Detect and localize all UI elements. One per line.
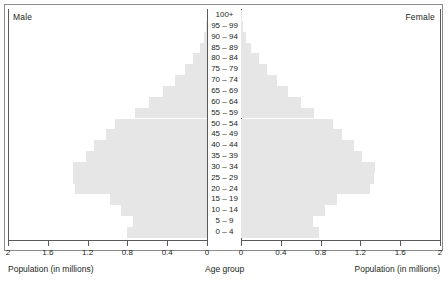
bar [175, 75, 207, 86]
axis-tick [440, 241, 441, 246]
bar [241, 151, 362, 162]
male-baseline-axis [8, 240, 208, 241]
axis-tick [241, 241, 242, 246]
bar [241, 119, 333, 130]
bar-row [8, 119, 207, 130]
axis-tick [360, 241, 361, 246]
axis-tick-label: 1.6 [42, 248, 53, 257]
bar [86, 151, 207, 162]
bar [241, 227, 319, 238]
bar-row [8, 97, 207, 108]
bar [206, 21, 207, 32]
age-group-label: 95 – 99 [208, 21, 241, 32]
axis-tick [400, 241, 401, 246]
axis-tick-label: 0.4 [162, 248, 173, 257]
bar-row [8, 129, 207, 140]
bar-row [8, 194, 207, 205]
bar [241, 129, 342, 140]
male-bars-panel [8, 10, 207, 238]
bar [73, 173, 207, 184]
bar [241, 162, 375, 173]
age-group-label: 0 – 4 [208, 227, 241, 238]
bar [94, 140, 207, 151]
bar-row [8, 205, 207, 216]
axis-tick [127, 241, 128, 246]
bar-row [241, 97, 440, 108]
bar-row [241, 64, 440, 75]
bar [135, 108, 207, 119]
bar-row [8, 43, 207, 54]
bar-row [241, 151, 440, 162]
bar-row [241, 216, 440, 227]
axis-tick [321, 241, 322, 246]
bar-row [241, 205, 440, 216]
axis-tick-label: 1.2 [355, 248, 366, 257]
bar-row [241, 75, 440, 86]
bar [241, 86, 288, 97]
age-group-label: 40 – 44 [208, 140, 241, 151]
bar-row [8, 32, 207, 43]
bar-row [241, 129, 440, 140]
age-group-label: 50 – 54 [208, 119, 241, 130]
bar-row [8, 53, 207, 64]
bar [241, 173, 374, 184]
bar-row [8, 216, 207, 227]
right-axis-title: Population (in millions) [354, 264, 440, 274]
axis-tick-label: 0.8 [122, 248, 133, 257]
age-group-label: 100+ [208, 10, 241, 21]
age-group-label: 70 – 74 [208, 75, 241, 86]
axis-tick [281, 241, 282, 246]
bar [241, 216, 313, 227]
age-group-label: 75 – 79 [208, 64, 241, 75]
bar-row [8, 173, 207, 184]
population-pyramid-chart: Male Female 100+95 – 9990 – 9485 – 8980 … [0, 0, 448, 291]
male-bar-rows [8, 10, 207, 238]
age-group-label-column: 100+95 – 9990 – 9485 – 8980 – 8475 – 797… [208, 9, 241, 241]
bar [241, 184, 370, 195]
bar [121, 205, 207, 216]
axis-tick-label: 0.4 [275, 248, 286, 257]
age-group-label: 65 – 69 [208, 86, 241, 97]
age-group-label: 35 – 39 [208, 151, 241, 162]
bar-row [241, 53, 440, 64]
female-bars-panel [241, 10, 440, 238]
bar [115, 119, 207, 130]
bar [241, 75, 277, 86]
bar [241, 205, 325, 216]
female-bar-rows [241, 10, 440, 238]
axis-tick-label: 0 [205, 248, 209, 257]
bar-row [241, 162, 440, 173]
bar [106, 129, 207, 140]
bar-row [8, 140, 207, 151]
bar [73, 162, 207, 173]
bar-row [241, 119, 440, 130]
bar-row [241, 184, 440, 195]
age-group-label: 5 – 9 [208, 216, 241, 227]
bar-row [8, 75, 207, 86]
bar-row [241, 173, 440, 184]
bar [163, 86, 207, 97]
bar [241, 64, 267, 75]
bar-row [241, 194, 440, 205]
bar-row [8, 64, 207, 75]
age-group-label: 10 – 14 [208, 205, 241, 216]
bar [241, 32, 246, 43]
bar [241, 140, 354, 151]
axis-tick-label: 1.2 [82, 248, 93, 257]
bar-row [241, 21, 440, 32]
bar [241, 97, 301, 108]
age-group-label: 20 – 24 [208, 184, 241, 195]
bar [133, 216, 207, 227]
bar-row [8, 162, 207, 173]
bar [241, 53, 259, 64]
bar-row [8, 227, 207, 238]
age-group-label: 60 – 64 [208, 97, 241, 108]
bar-row [241, 140, 440, 151]
bar [200, 43, 207, 54]
bar [241, 21, 243, 32]
bar [241, 108, 314, 119]
bar [127, 227, 207, 238]
bar-row [241, 108, 440, 119]
bar-row [241, 43, 440, 54]
bar-row [8, 21, 207, 32]
